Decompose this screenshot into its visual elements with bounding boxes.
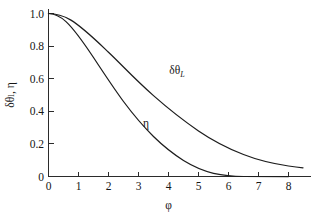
x-tick-label: 0 (46, 180, 52, 192)
x-tick-label: 5 (196, 180, 202, 192)
y-tick-label: 0.2 (30, 138, 45, 150)
x-tick-label: 7 (256, 180, 262, 192)
chart-plot-area: 0 1 2 3 4 5 6 7 8 0 0.2 0.4 0.6 0.8 1.0 … (0, 0, 319, 217)
y-axis-title: δθₗ, η (4, 82, 17, 107)
x-tick-label: 1 (76, 180, 82, 192)
x-tick-label: 3 (136, 180, 142, 192)
y-tick-label: 0 (38, 171, 44, 183)
y-tick-label: 0.6 (30, 73, 45, 85)
x-tick-label: 2 (106, 180, 112, 192)
y-tick-label: 1.0 (30, 8, 45, 20)
chart-figure: 0 1 2 3 4 5 6 7 8 0 0.2 0.4 0.6 0.8 1.0 … (0, 0, 319, 217)
y-tick-marks (49, 14, 54, 177)
series-eta-curve (49, 14, 289, 177)
x-tick-label: 8 (286, 180, 292, 192)
x-tick-label: 4 (166, 180, 172, 192)
curve-label-eta: η (143, 117, 149, 130)
curve-label-delta-theta: δθL (169, 64, 185, 79)
series-delta-theta-curve (49, 14, 304, 168)
y-tick-label: 0.4 (30, 105, 45, 117)
x-tick-marks (49, 172, 289, 177)
y-tick-labels: 0 0.2 0.4 0.6 0.8 1.0 (30, 8, 45, 183)
y-axis-title-group: δθₗ, η (4, 82, 17, 107)
x-tick-labels: 0 1 2 3 4 5 6 7 8 (46, 180, 292, 192)
curve-label-delta-theta-group: δθL (169, 64, 185, 79)
x-axis-title: φ (165, 199, 172, 212)
y-tick-label: 0.8 (30, 40, 45, 52)
x-tick-label: 6 (226, 180, 232, 192)
